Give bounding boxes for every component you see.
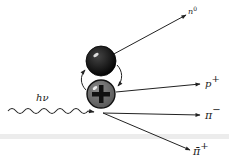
proton-track — [116, 84, 200, 92]
pi-minus-label: π− — [204, 104, 221, 122]
photon-wave — [8, 109, 94, 114]
neutron-label: n0 — [188, 5, 197, 16]
pi-minus-track — [103, 113, 200, 115]
diagram-canvas: hν n0 p+ π− π̄+ — [0, 0, 229, 162]
background-band — [0, 134, 229, 139]
photon-label: hν — [36, 92, 49, 103]
neutron-sphere — [86, 46, 116, 76]
anti-pi-plus-label: π̄+ — [192, 140, 209, 158]
proton-sphere — [87, 80, 115, 108]
anti-pi-plus-track — [103, 113, 190, 150]
proton-label: p+ — [205, 73, 220, 89]
exchange-arrow-right — [117, 65, 122, 86]
exchange-arrow-left — [81, 70, 86, 90]
neutron-track — [112, 15, 186, 55]
